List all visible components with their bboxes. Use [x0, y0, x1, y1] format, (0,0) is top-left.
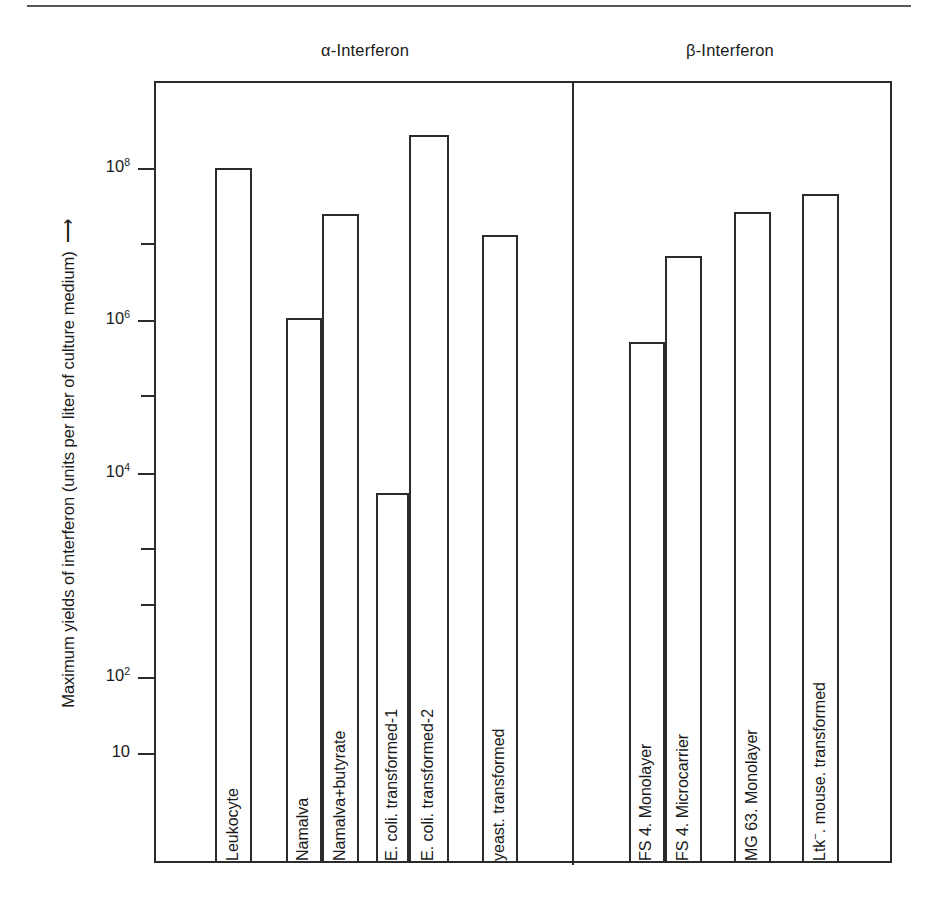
y-tick-minor: [141, 548, 155, 550]
figure-container: Maximum yields of interferon (units per …: [0, 0, 933, 901]
bar-namalva: [286, 318, 322, 861]
group-header-beta: β-Interferon: [600, 41, 860, 60]
bar-label-leukocyte: Leukocyte: [225, 788, 241, 861]
figure-top-rule: [27, 5, 911, 7]
bar-label-superscript: −: [808, 833, 820, 839]
y-tick-major: [138, 753, 155, 755]
y-tick-minor: [141, 604, 155, 606]
y-tick-exponent: 8: [124, 156, 130, 168]
y-tick-label-text: 102: [60, 666, 130, 685]
bar-label-ltk-mouse-transformed: Ltk−. mouse. transformed: [812, 682, 828, 861]
bar-label-ecoli-transformed-1: E. coli. transformed-1: [384, 709, 400, 861]
y-tick-major: [138, 320, 155, 322]
bar-label-mg63-monolayer: MG 63. Monolayer: [744, 729, 760, 861]
y-tick-label-text: 104: [60, 462, 130, 481]
y-tick-minor: [141, 243, 155, 245]
y-tick-minor: [141, 395, 155, 397]
y-tick-major: [138, 168, 155, 170]
bar-label-namalva-butyrate: Namalva+butyrate: [332, 731, 348, 861]
y-tick-major: [138, 473, 155, 475]
bar-label-ecoli-transformed-2: E. coli. transformed-2: [420, 709, 436, 861]
y-tick-exponent: 6: [124, 308, 130, 320]
bar-label-yeast-transformed: yeast. transformed: [491, 729, 507, 862]
plot-frame: [154, 81, 892, 863]
y-tick-exponent: 4: [124, 461, 130, 473]
bar-label-namalva: Namalva: [295, 798, 311, 861]
y-tick-exponent: 2: [124, 665, 130, 677]
y-tick-label-text: 108: [60, 157, 130, 176]
y-tick-label-text: 10: [60, 742, 130, 761]
y-tick-major: [138, 677, 155, 679]
bar-label-fs4-microcarrier: FS 4. Microcarrier: [675, 734, 691, 861]
group-divider: [572, 81, 574, 865]
y-tick-label-text: 106: [60, 309, 130, 328]
group-header-alpha: α-Interferon: [200, 41, 530, 60]
y-axis-arrow-icon: ⟶: [59, 221, 78, 243]
bar-leukocyte: [215, 168, 252, 861]
bar-label-fs4-monolayer: FS 4. Monolayer: [638, 744, 654, 861]
